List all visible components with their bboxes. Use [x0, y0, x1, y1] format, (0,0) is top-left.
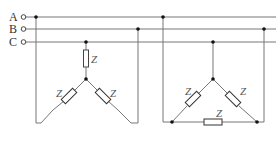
junction-dot-icon: [161, 15, 165, 19]
star-resistor-b-icon: [95, 88, 111, 104]
delta-wire-b: [257, 29, 264, 122]
terminal-a-icon: [21, 15, 26, 20]
star-z-label-c: Z: [91, 54, 97, 65]
circuit-diagram: A B C Z Z Z Z Z Z: [0, 0, 280, 141]
junction-dot-icon: [34, 15, 38, 19]
delta-vertex-dot-icon: [255, 120, 259, 124]
junction-dot-icon: [84, 40, 88, 44]
line-label-c: C: [9, 36, 17, 48]
star-z-label-b: Z: [110, 88, 116, 99]
delta-vertex-dot-icon: [170, 120, 174, 124]
line-label-b: B: [9, 23, 17, 35]
circuit-svg: [0, 0, 280, 141]
star-center-dot-icon: [84, 77, 88, 81]
junction-dot-icon: [136, 27, 140, 31]
delta-resistor-ab-icon: [204, 119, 222, 125]
star-wire-b: [118, 29, 138, 123]
star-wire-a: [36, 17, 53, 123]
delta-resistor-bc-icon: [225, 91, 241, 107]
delta-z-label-ca: Z: [185, 86, 191, 97]
junction-dot-icon: [211, 40, 215, 44]
delta-z-label-ab: Z: [216, 108, 222, 119]
terminal-b-icon: [21, 27, 26, 32]
terminal-c-icon: [21, 40, 26, 45]
star-resistor-c-icon: [84, 50, 89, 67]
delta-vertex-dot-icon: [211, 77, 215, 81]
delta-wire-a: [163, 17, 172, 122]
delta-z-label-bc: Z: [240, 86, 246, 97]
junction-dot-icon: [262, 27, 266, 31]
star-resistor-a-icon: [61, 88, 77, 104]
star-z-label-a: Z: [56, 88, 62, 99]
